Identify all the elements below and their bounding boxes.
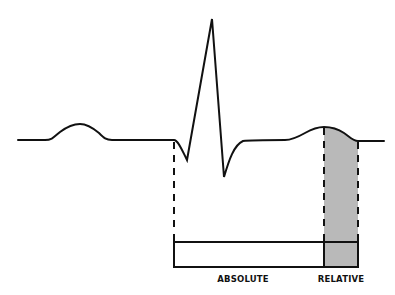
relative-refractory-label: RELATIVE bbox=[318, 274, 365, 284]
absolute-refractory-label: ABSOLUTE bbox=[217, 274, 269, 284]
relative-shaded-region bbox=[324, 127, 358, 267]
ecg-diagram bbox=[0, 0, 395, 295]
